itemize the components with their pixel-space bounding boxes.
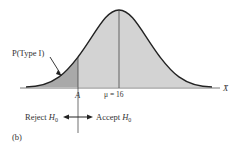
rejection-region [26,57,78,87]
accept-h0-label: Accept H0 [96,113,131,123]
arrow-right-icon [87,115,93,120]
reject-h0-label: Reject H0 [25,113,58,123]
critical-value-label: A [75,91,80,100]
arrow-left-icon [63,115,69,120]
mean-label: μ = 16 [104,91,124,99]
axis-label: X̄ [223,84,228,93]
panel-label: (b) [12,133,22,142]
normal-curve-diagram [0,0,241,151]
type-i-label: P(Type I) [12,49,44,58]
type-i-pointer [50,57,60,73]
